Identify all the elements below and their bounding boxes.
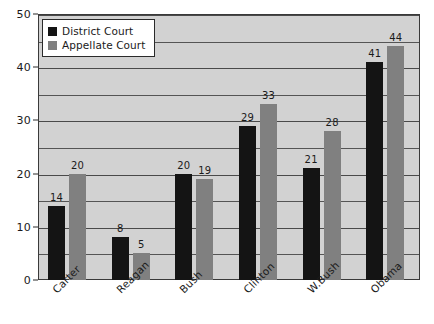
bar-value-label: 41 [368, 48, 381, 59]
bar-district-clinton: 29 [239, 126, 256, 280]
bar-group-obama: 4144 [356, 14, 420, 280]
y-tick-label-40: 40 [17, 61, 31, 74]
bar-group-bush: 2019 [165, 14, 229, 280]
bar-district-bush: 20 [175, 174, 192, 280]
x-axis: CarterReaganBushClintonW.BushObama [38, 281, 420, 324]
legend-square-gray-icon [48, 41, 57, 50]
bar-value-label: 8 [117, 223, 124, 234]
bar-value-label: 14 [50, 192, 63, 203]
bar-value-label: 28 [326, 117, 339, 128]
y-tick-label-10: 10 [17, 220, 31, 233]
bar-value-label: 20 [71, 160, 84, 171]
bar-appellate-bush: 19 [196, 179, 213, 280]
bar-value-label: 5 [138, 239, 145, 250]
bar-value-label: 21 [305, 154, 318, 165]
bar-value-label: 44 [389, 32, 402, 43]
y-tick-label-50: 50 [17, 8, 31, 21]
bar-value-label: 20 [177, 160, 190, 171]
bar-district-obama: 41 [366, 62, 383, 280]
bar-appellate-w-bush: 28 [324, 131, 341, 280]
y-tick-label-20: 20 [17, 167, 31, 180]
bar-district-carter: 14 [48, 206, 65, 280]
bar-value-label: 33 [262, 90, 275, 101]
legend-square-black-icon [48, 27, 57, 36]
bar-value-label: 19 [198, 165, 211, 176]
legend-item-label: Appellate Court [62, 39, 146, 51]
bar-district-w-bush: 21 [303, 168, 320, 280]
y-tick-label-0: 0 [24, 274, 31, 287]
bar-group-w-bush: 2128 [293, 14, 357, 280]
bar-appellate-obama: 44 [387, 46, 404, 280]
bar-group-clinton: 2933 [229, 14, 293, 280]
bar-chart: 01020304050 1420852019293321284144 Carte… [0, 0, 434, 324]
bar-value-label: 29 [241, 112, 254, 123]
legend-item-label: District Court [62, 25, 133, 37]
legend-item-appellate-court: Appellate Court [48, 38, 146, 52]
chart-legend: District CourtAppellate Court [42, 19, 155, 57]
y-axis: 01020304050 [0, 0, 38, 324]
y-tick-label-30: 30 [17, 114, 31, 127]
legend-item-district-court: District Court [48, 24, 146, 38]
bar-appellate-clinton: 33 [260, 104, 277, 280]
